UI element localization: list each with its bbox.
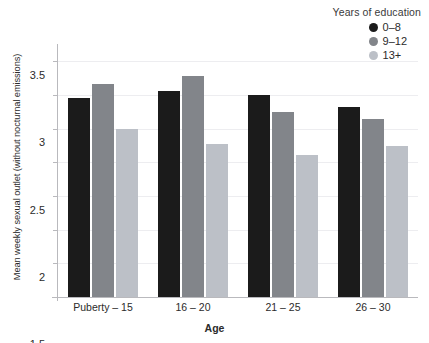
legend-swatch-icon [369, 37, 378, 46]
bar-group: 21 – 25 [238, 48, 328, 297]
bar[interactable] [68, 98, 90, 297]
bar-groups: Puberty – 1516 – 2021 – 2526 – 30 [58, 48, 418, 297]
bar-group: Puberty – 15 [58, 48, 148, 297]
bar[interactable] [182, 76, 204, 297]
plot-area-wrapper: 00.511.522.533.5 Puberty – 1516 – 2021 –… [58, 48, 418, 297]
x-axis-category-label: 21 – 25 [238, 301, 328, 313]
bar-group-bars [328, 48, 418, 297]
legend-item-label: 0–8 [383, 22, 401, 33]
bar-group-bars [238, 48, 328, 297]
bar[interactable] [296, 155, 318, 297]
bar-group: 16 – 20 [148, 48, 238, 297]
y-axis-title-text: Mean weekly sexual outlet (without noctu… [12, 54, 22, 281]
x-axis-category-label: 16 – 20 [148, 301, 238, 313]
bar[interactable] [272, 112, 294, 297]
bar[interactable] [158, 91, 180, 297]
x-axis-category-label: 26 – 30 [328, 301, 418, 313]
y-axis-tick-label: 2.5 [30, 204, 45, 216]
y-axis-tick-label: 2 [39, 271, 45, 283]
bar[interactable] [116, 129, 138, 297]
y-axis-tick-label: 3 [39, 136, 45, 148]
bar-group-bars [58, 48, 148, 297]
y-axis-tick-label: 1.5 [30, 338, 45, 343]
bar[interactable] [206, 144, 228, 297]
legend-item: 0–8 [369, 21, 421, 34]
y-axis-title: Mean weekly sexual outlet (without noctu… [10, 42, 24, 292]
x-axis-title: Age [0, 322, 429, 334]
bar-group: 26 – 30 [328, 48, 418, 297]
bar[interactable] [362, 119, 384, 297]
legend-title: Years of education [333, 6, 421, 18]
legend-swatch-icon [369, 23, 378, 32]
bar-group-bars [148, 48, 238, 297]
x-axis-category-label: Puberty – 15 [58, 301, 148, 313]
bar[interactable] [338, 107, 360, 297]
bar[interactable] [386, 146, 408, 297]
bar-chart: Years of education 0–8 9–12 13+ Mean wee… [0, 0, 429, 343]
plot-area: 00.511.522.533.5 Puberty – 1516 – 2021 –… [58, 48, 418, 297]
legend-item: 9–12 [369, 35, 421, 48]
x-axis-line [52, 297, 418, 298]
y-axis-tick-label: 3.5 [30, 69, 45, 81]
bar[interactable] [248, 95, 270, 297]
legend-item-label: 9–12 [383, 36, 407, 47]
bar[interactable] [92, 84, 114, 297]
